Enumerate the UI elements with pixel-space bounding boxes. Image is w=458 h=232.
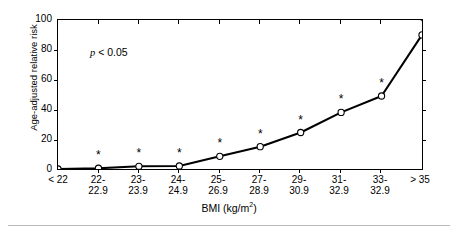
significance-asterisk-5: * bbox=[217, 136, 222, 150]
significance-asterisk-3: * bbox=[137, 146, 142, 160]
data-point-7 bbox=[298, 129, 304, 135]
y-tick-label-60: 60 bbox=[26, 74, 52, 84]
data-point-6 bbox=[257, 144, 263, 150]
data-point-5 bbox=[217, 153, 223, 159]
x-tick-mark-6 bbox=[299, 169, 300, 173]
y-tick-label-0: 0 bbox=[26, 164, 52, 174]
footer-rule bbox=[8, 225, 450, 226]
data-point-10 bbox=[419, 32, 422, 38]
data-point-1 bbox=[58, 166, 61, 169]
data-point-2 bbox=[95, 165, 101, 169]
x-tick-mark-4 bbox=[219, 169, 220, 173]
risk-line bbox=[58, 35, 422, 169]
y-tick-label-100: 100 bbox=[26, 14, 52, 24]
significance-asterisk-10: * bbox=[420, 20, 422, 29]
x-tick-mark-1 bbox=[98, 169, 99, 173]
x-axis-title-main: BMI (kg/m bbox=[201, 202, 249, 214]
y-right-tick-mark-60 bbox=[422, 80, 426, 81]
significance-asterisk-7: * bbox=[298, 113, 303, 127]
significance-asterisk-8: * bbox=[339, 92, 344, 106]
data-point-3 bbox=[136, 163, 142, 169]
x-tick-mark-3 bbox=[178, 169, 179, 173]
y-right-tick-mark-40 bbox=[422, 110, 426, 111]
significance-asterisk-6: * bbox=[258, 127, 263, 141]
y-tick-label-80: 80 bbox=[26, 44, 52, 54]
significance-asterisk-9: * bbox=[379, 76, 384, 90]
figure-container: Age-adjusted relative risk 100 80 60 40 … bbox=[0, 0, 458, 232]
data-point-9 bbox=[378, 93, 384, 99]
x-tick-label-10: > 35 bbox=[390, 174, 450, 185]
plot-area: p < 0.05 ********* bbox=[57, 19, 423, 170]
significance-asterisk-2: * bbox=[96, 148, 101, 162]
x-tick-mark-8 bbox=[380, 169, 381, 173]
x-tick-mark-2 bbox=[138, 169, 139, 173]
x-tick-label-9-line2: 32.9 bbox=[350, 185, 410, 196]
x-tick-label-10-line1: > 35 bbox=[390, 174, 450, 185]
y-right-tick-mark-20 bbox=[422, 140, 426, 141]
data-point-markers bbox=[58, 32, 422, 169]
x-tick-mark-7 bbox=[340, 169, 341, 173]
data-point-8 bbox=[338, 109, 344, 115]
significance-asterisk-4: * bbox=[177, 146, 182, 160]
x-tick-mark-5 bbox=[259, 169, 260, 173]
chart-series-svg: ********* bbox=[58, 20, 422, 169]
data-point-4 bbox=[176, 163, 182, 169]
significance-asterisks: ********* bbox=[96, 20, 422, 162]
y-tick-label-40: 40 bbox=[26, 104, 52, 114]
y-tick-label-20: 20 bbox=[26, 134, 52, 144]
y-right-tick-mark-80 bbox=[422, 50, 426, 51]
x-axis-title: BMI (kg/m2) bbox=[0, 201, 458, 214]
x-axis-title-close: ) bbox=[253, 202, 257, 214]
